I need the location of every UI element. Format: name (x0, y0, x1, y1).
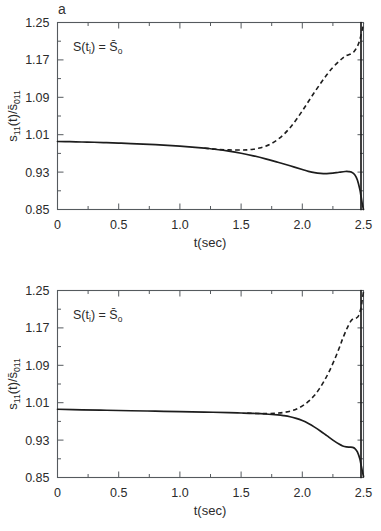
ytick-label: 0.85 (25, 203, 49, 217)
ytick-label: 1.25 (25, 16, 49, 30)
xtick-label: 2.0 (294, 218, 311, 232)
ytick-label: 1.17 (25, 53, 49, 67)
annot-a-sub2: o (118, 46, 123, 56)
xtick-label: 2.0 (294, 486, 311, 500)
ylabel-b-sub1: 11 (12, 394, 22, 403)
plot-a-svg: 00.51.01.52.02.5 0.850.931.011.091.171.2… (0, 0, 381, 265)
plot-a-yaxis-title: s11(t)/s̄011 (5, 90, 22, 142)
curve-dashed (247, 292, 363, 414)
ytick-label: 1.25 (25, 284, 49, 298)
xtick-label: 2.5 (355, 218, 372, 232)
plot-b-svg: 00.51.01.52.02.5 0.850.931.011.091.171.2… (0, 265, 381, 531)
plot-b-yaxis-title: s11(t)/s̄011 (5, 358, 22, 410)
ytick-label: 1.17 (25, 321, 49, 335)
ylabel-b-part2: (t)/s (5, 371, 20, 394)
annot-b-part2: ) = S (91, 308, 118, 322)
plot-a-annotation: S(ti) = S̄o (73, 40, 123, 56)
annot-a-part2: ) = S (91, 40, 118, 54)
xtick-label: 1.5 (232, 218, 249, 232)
ylabel-b-sub2: 011 (12, 358, 22, 372)
xtick-label: 1.5 (232, 486, 249, 500)
curve-solid (58, 409, 364, 476)
ytick-label: 1.01 (25, 396, 49, 410)
ytick-label: 0.93 (25, 166, 49, 180)
annot-b-part1: S(t (73, 308, 90, 322)
xtick-label: 0.5 (110, 218, 127, 232)
xtick-label: 1.0 (171, 218, 188, 232)
annot-a-part1: S(t (73, 40, 90, 54)
panel-a: a 00.51.01.52.02.5 0.850.931.011.091.171… (0, 0, 381, 265)
plot-b-ytick-labels: 0.850.931.011.091.171.25 (25, 284, 49, 485)
ytick-label: 0.93 (25, 434, 49, 448)
xtick-label: 0.5 (110, 486, 127, 500)
ylabel-a-sub1: 11 (12, 126, 22, 135)
plot-a-xaxis-title: t(sec) (194, 235, 227, 250)
curve-solid (58, 141, 364, 209)
ytick-label: 1.09 (25, 91, 49, 105)
plot-b-xaxis-title: t(sec) (194, 503, 227, 518)
plot-b-annotation: S(ti) = S̄o (73, 308, 123, 324)
ytick-label: 1.01 (25, 128, 49, 142)
annot-b-sub2: o (118, 314, 123, 324)
figure-container: a 00.51.01.52.02.5 0.850.931.011.091.171… (0, 0, 381, 531)
ylabel-a-sub2: 011 (12, 90, 22, 104)
panel-b: b 00.51.01.52.02.5 0.850.931.011.091.171… (0, 265, 381, 531)
plot-a-xtick-labels: 00.51.01.52.02.5 (54, 218, 372, 232)
ytick-label: 0.85 (25, 471, 49, 485)
plot-a-ytick-labels: 0.850.931.011.091.171.25 (25, 16, 49, 217)
plot-b-xtick-labels: 00.51.01.52.02.5 (54, 486, 372, 500)
ytick-label: 1.09 (25, 359, 49, 373)
xtick-label: 0 (54, 218, 61, 232)
curve-dashed (204, 23, 363, 150)
xtick-label: 0 (54, 486, 61, 500)
xtick-label: 1.0 (171, 486, 188, 500)
ylabel-a-part2: (t)/s (5, 103, 20, 126)
xtick-label: 2.5 (355, 486, 372, 500)
